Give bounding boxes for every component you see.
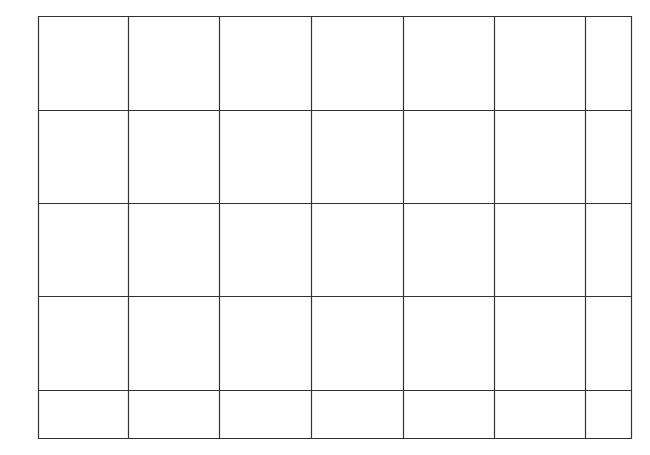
grid-diagram xyxy=(0,0,650,455)
